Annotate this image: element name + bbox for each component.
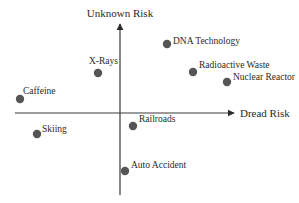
x-axis-label: Dread Risk <box>240 107 290 119</box>
data-point: Caffeine <box>16 86 56 103</box>
point-marker-icon <box>33 130 41 138</box>
data-point: DNA Technology <box>163 36 240 48</box>
point-marker-icon <box>223 78 231 86</box>
data-points: DNA TechnologyX-RaysRadioactive WasteNuc… <box>16 36 296 175</box>
point-label: X-Rays <box>89 56 118 66</box>
point-marker-icon <box>121 167 129 175</box>
point-label: Nuclear Reactor <box>233 72 296 82</box>
point-label: Skiing <box>42 124 67 134</box>
point-marker-icon <box>189 68 197 76</box>
data-point: Auto Accident <box>121 160 187 175</box>
y-axis-label: Unknown Risk <box>87 7 154 19</box>
point-marker-icon <box>94 69 102 77</box>
risk-perception-diagram: Unknown Risk Dread Risk DNA TechnologyX-… <box>0 0 299 203</box>
data-point: Railroads <box>129 114 176 130</box>
point-label: Radioactive Waste <box>199 60 270 70</box>
point-marker-icon <box>163 40 171 48</box>
data-point: Nuclear Reactor <box>223 72 296 86</box>
data-point: Skiing <box>33 124 67 138</box>
point-label: Railroads <box>139 114 176 124</box>
point-label: Caffeine <box>23 86 56 96</box>
point-label: Auto Accident <box>131 160 187 170</box>
point-marker-icon <box>129 122 137 130</box>
data-point: X-Rays <box>89 56 118 77</box>
point-label: DNA Technology <box>173 36 240 46</box>
point-marker-icon <box>16 95 24 103</box>
